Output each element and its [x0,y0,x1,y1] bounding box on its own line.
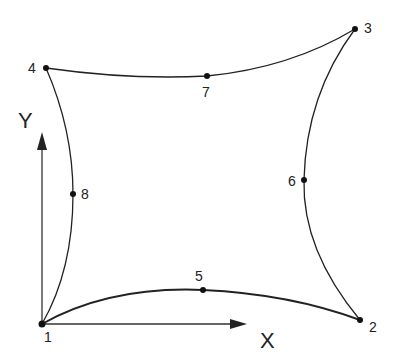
edge-4-8-1 [42,68,73,324]
node-1 [39,321,46,328]
node-7 [204,73,210,79]
y-axis-arrowhead-icon [37,132,47,150]
node-2 [357,317,363,323]
node-label-2: 2 [369,319,377,335]
y-axis-label: Y [18,108,33,133]
edge-2-6-3 [304,29,360,320]
node-8 [70,191,76,197]
node-label-3: 3 [364,20,372,36]
node-label-6: 6 [288,173,296,189]
node-label-4: 4 [28,60,36,76]
node-label-5: 5 [195,268,203,284]
edge-1-5-2 [42,290,360,324]
x-axis-label: X [260,328,275,353]
node-label-7: 7 [202,84,210,100]
node-6 [301,177,307,183]
node-4 [43,65,49,71]
element-diagram: X Y 1 2 3 4 5 6 7 8 [0,0,399,361]
node-3 [352,26,358,32]
edge-3-7-4 [46,29,355,77]
x-axis-arrowhead-icon [230,319,247,329]
node-label-8: 8 [81,186,89,202]
node-5 [200,287,206,293]
node-label-1: 1 [44,329,52,345]
